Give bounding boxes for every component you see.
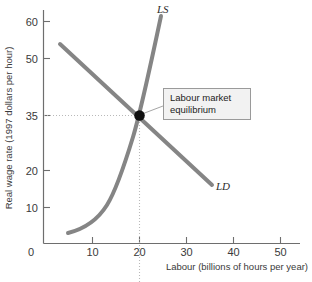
x-tick-label-40: 40 bbox=[227, 246, 239, 258]
y-tick-label-10: 10 bbox=[26, 202, 38, 214]
x-tick-label-20: 20 bbox=[133, 246, 145, 258]
x-tick-label-10: 10 bbox=[86, 246, 98, 258]
callout-leader-line bbox=[142, 106, 163, 114]
y-axis-title: Real wage rate (1997 dollars per hour) bbox=[3, 47, 14, 210]
y-tick-label-35: 35 bbox=[26, 110, 38, 122]
y-tick-label-50: 50 bbox=[26, 53, 38, 65]
labour-supply-label: LS bbox=[156, 3, 169, 15]
x-tick-label-0: 0 bbox=[28, 246, 34, 258]
x-tick-label-50: 50 bbox=[274, 246, 286, 258]
y-tick-label-20: 20 bbox=[26, 165, 38, 177]
equilibrium-callout-box: Labour market equilibrium bbox=[163, 88, 251, 120]
y-tick-label-60: 60 bbox=[26, 16, 38, 28]
chart-container: 60 50 35 20 10 0 10 20 30 40 50 Real wag… bbox=[0, 0, 312, 282]
x-tick-label-30: 30 bbox=[180, 246, 192, 258]
x-axis-title: Labour (billions of hours per year) bbox=[166, 261, 308, 272]
labour-demand-label: LD bbox=[215, 180, 230, 192]
equilibrium-point-dot bbox=[134, 110, 145, 121]
chart-canvas: 60 50 35 20 10 0 10 20 30 40 50 Real wag… bbox=[0, 0, 312, 282]
